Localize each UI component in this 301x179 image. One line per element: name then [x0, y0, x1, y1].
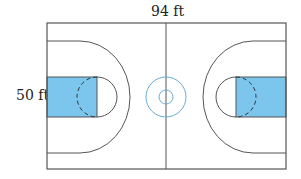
right-free-throw-arc [216, 77, 236, 117]
right-key [236, 77, 286, 117]
basketball-court-diagram [0, 0, 301, 179]
left-key [47, 77, 97, 117]
left-free-throw-arc [97, 77, 117, 117]
